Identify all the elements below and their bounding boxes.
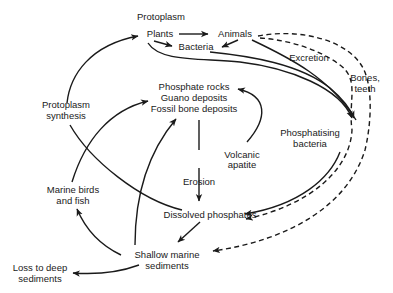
node-fossil-bone-deposits: Fossil bone deposits: [151, 103, 238, 114]
label-protoplasm-synthesis-line2: synthesis: [46, 110, 86, 121]
node-phosphatising-bacteria-line2: bacteria: [293, 138, 327, 149]
node-plants: Plants: [147, 28, 173, 39]
node-phosphatising-bacteria-line1: Phosphatising: [280, 127, 340, 138]
label-bones-teeth-line2: teeth: [354, 83, 375, 94]
node-phosphate-rocks: Phosphate rocks: [159, 81, 230, 92]
node-loss-deep-line1: Loss to deep: [13, 262, 67, 273]
arrow-synthesis-plants: [67, 36, 138, 103]
arrow-dissolved-shallow: [178, 222, 200, 242]
node-dissolved-phosphates: Dissolved phosphates: [164, 209, 257, 220]
arrow-shallow-fossil: [135, 119, 176, 245]
phosphorus-cycle-diagram: Protoplasm Plants Animals Bacteria Excre…: [0, 0, 393, 293]
arrow-phosphatising-dissolved: [245, 152, 340, 214]
node-loss-deep-line2: sediments: [18, 273, 61, 284]
label-protoplasm-synthesis-line1: Protoplasm: [42, 99, 90, 110]
arrow-shallow-loss: [73, 265, 139, 274]
arrow-volcanic-rocks: [238, 89, 262, 142]
arrow-shallow-marinebirds: [77, 209, 121, 255]
node-marine-birds-line1: Marine birds: [47, 184, 99, 195]
node-animals: Animals: [218, 28, 252, 39]
arrow-plants-bacteria: [154, 41, 172, 46]
label-erosion: Erosion: [183, 176, 215, 187]
node-bacteria: Bacteria: [179, 41, 214, 52]
node-shallow-marine-line1: Shallow marine: [135, 249, 200, 260]
label-bones-teeth-line1: Bones,: [350, 72, 380, 83]
node-guano-deposits: Guano deposits: [161, 92, 228, 103]
node-shallow-marine-line2: sediments: [145, 260, 188, 271]
arrow-animals-bacteria: [222, 40, 238, 47]
node-volcanic-apatite-line2: apatite: [228, 159, 257, 170]
label-excretion: Excretion: [289, 52, 329, 63]
label-protoplasm: Protoplasm: [137, 11, 185, 22]
node-marine-birds-line2: and fish: [56, 195, 89, 206]
